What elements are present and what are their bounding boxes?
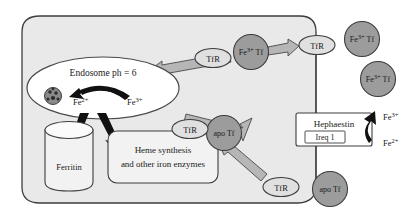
diagram-canvas: Endosome ph = 6 Fe2+ Fe3+ Ferritin Heme … bbox=[0, 0, 413, 223]
receptor-tfr-endosome: TfR bbox=[195, 49, 231, 68]
receptor-tfr-apo-complex-label: TfR bbox=[183, 125, 197, 135]
heme-synthesis-line2: and other iron enzymes bbox=[121, 159, 206, 169]
receptor-tfr-recycled: TfR bbox=[263, 178, 299, 197]
receptor-tfr-apo-complex: TfR bbox=[172, 120, 208, 139]
ligand-apo-tf-bound-label: apo Tf bbox=[214, 129, 235, 138]
receptor-tfr-endosome-label: TfR bbox=[206, 54, 220, 64]
dmt1-transporter-icon bbox=[45, 88, 62, 105]
ligand-apo-tf-released-label: apo Tf bbox=[320, 185, 341, 194]
heme-synthesis-line1: Heme synthesis bbox=[135, 145, 192, 155]
receptor-tfr-recycled-label: TfR bbox=[274, 183, 288, 193]
hephaestin-fe2-label: Fe2+ bbox=[383, 137, 399, 149]
receptor-tfr-membrane-label: TfR bbox=[310, 41, 324, 51]
ireq1-label: Ireq 1 bbox=[316, 133, 335, 142]
ferritin-cylinder bbox=[45, 122, 93, 192]
ferritin-label: Ferritin bbox=[56, 162, 82, 172]
hephaestin-fe3-label: Fe3+ bbox=[383, 111, 399, 123]
heme-synthesis-box bbox=[108, 131, 218, 183]
endosome-label: Endosome ph = 6 bbox=[70, 68, 137, 78]
receptor-tfr-membrane: TfR bbox=[299, 36, 335, 55]
hephaestin-label: Hephaestin bbox=[314, 119, 355, 129]
